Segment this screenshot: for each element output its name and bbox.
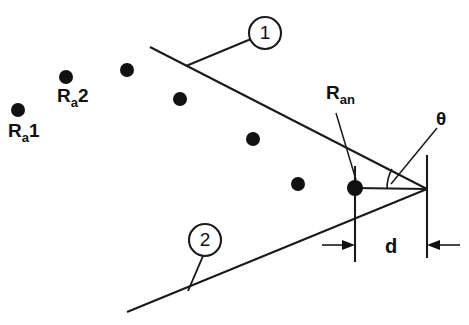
label-ra1: Ra1 xyxy=(8,121,40,140)
array-element-dot xyxy=(11,103,25,117)
callout-2-leader xyxy=(188,256,203,291)
ran-leader-line xyxy=(336,113,356,180)
theta-leader-line xyxy=(391,128,437,184)
label-ran-base: R xyxy=(326,82,340,103)
label-ra2-subscript: a xyxy=(71,95,78,110)
callout-1-label: 1 xyxy=(249,23,281,42)
diagram-canvas: Ra1 Ra2 Ran θ d 1 2 xyxy=(0,0,469,325)
label-ran-subscript: an xyxy=(340,92,355,107)
dimension-right-arrowhead xyxy=(427,240,440,250)
dimension-left-arrowhead xyxy=(342,240,355,250)
diagram-vector-layer xyxy=(0,0,469,325)
label-ra2-base: R xyxy=(57,85,71,106)
ray-lower-line-2 xyxy=(127,189,427,312)
label-spacing-d: d xyxy=(385,236,397,256)
label-ra2: Ra2 xyxy=(57,86,89,105)
array-element-dot xyxy=(246,132,260,146)
array-element-dot xyxy=(120,63,134,77)
label-ra1-index: 1 xyxy=(29,120,40,141)
label-theta: θ xyxy=(436,109,446,128)
baseline-ran-to-apex xyxy=(355,188,427,189)
ray-upper-line-1 xyxy=(150,47,427,189)
angle-arc-theta xyxy=(387,169,392,189)
label-ran: Ran xyxy=(326,83,355,102)
array-element-dot xyxy=(59,70,73,84)
array-element-dot xyxy=(173,92,187,106)
array-element-dot xyxy=(291,177,305,191)
label-ra1-subscript: a xyxy=(22,130,29,145)
callout-2-label: 2 xyxy=(189,230,221,249)
label-ra2-index: 2 xyxy=(78,85,89,106)
label-ra1-base: R xyxy=(8,120,22,141)
array-element-dot-ran xyxy=(347,180,363,196)
callout-1-leader xyxy=(186,39,251,66)
